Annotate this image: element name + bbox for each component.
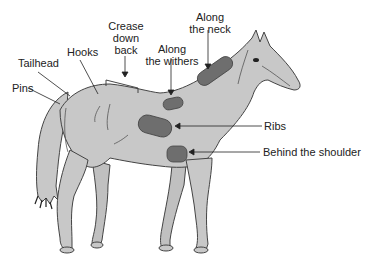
horse-body-condition-diagram: Pins Tailhead Hooks Crease down back Alo…: [0, 0, 372, 267]
label-withers-line2: the withers: [145, 55, 199, 67]
front-leg-far: [161, 165, 187, 248]
label-neck-line1: Along: [186, 11, 234, 23]
label-ribs: Ribs: [264, 120, 286, 132]
patch-behind-the-shoulder: [167, 146, 187, 162]
label-hooks: Hooks: [67, 46, 98, 58]
hind-leg-near: [57, 150, 88, 250]
label-crease-line2: down: [106, 32, 146, 44]
label-behind-the-shoulder: Behind the shoulder: [263, 146, 361, 158]
label-crease-line1: Crease: [106, 20, 146, 32]
label-tailhead: Tailhead: [18, 57, 59, 69]
eye: [253, 58, 259, 62]
label-crease-line3: back: [106, 44, 146, 56]
front-leg-near: [186, 158, 212, 250]
label-neck-line2: the neck: [186, 23, 234, 35]
label-crease-down-back: Crease down back: [106, 20, 146, 56]
label-along-the-withers: Along the withers: [145, 43, 199, 67]
label-along-the-neck: Along the neck: [186, 11, 234, 35]
label-pins: Pins: [12, 82, 33, 94]
hind-leg-far: [92, 160, 110, 246]
label-withers-line1: Along: [145, 43, 199, 55]
horse-illustration: [0, 0, 372, 267]
